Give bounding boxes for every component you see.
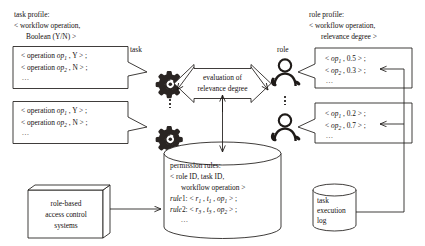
permission-rules-line-3: workflow operation > — [181, 183, 246, 193]
task-profile-format-line2: Boolean (Y/N) > — [26, 32, 76, 42]
role-label: role — [277, 45, 289, 55]
role-profile-box-2-line-1: < op1 , 0.2 > ; — [325, 109, 366, 121]
person-icon-role-1 — [271, 58, 300, 86]
rbac-line-1: role-based — [30, 199, 102, 209]
rbac-line-2: access control — [30, 210, 102, 220]
task-profile-format-line1: < workflow operation, — [14, 21, 80, 31]
role-profile-box-1-ellipsis: ... — [326, 76, 333, 85]
task-profile-title: task profile: — [14, 10, 50, 20]
task-profile-box-2-line-2: < operation op2 , N > ; — [21, 118, 88, 130]
task-vertical-ellipsis — [167, 97, 173, 108]
rule-keyword: rule — [170, 205, 182, 214]
task-profile-box-2-line-1: < operation op1 , Y > ; — [21, 106, 87, 118]
permission-rules-line-2: < role ID, task ID, — [170, 172, 224, 182]
rbac-line-3: systems — [30, 221, 102, 231]
task-profile-box-1-line-1: < operation op1 , Y > ; — [21, 51, 87, 63]
role-profile-box-1-line-1: < op1 , 0.5 > ; — [325, 54, 366, 66]
evaluation-line-2: relevance degree — [185, 84, 260, 94]
evaluation-line-1: evaluation of — [191, 73, 254, 83]
task-log-line-1: task — [317, 196, 329, 206]
person-icon-role-2 — [271, 113, 300, 141]
diagram-canvas: task profile: < workflow operation, Bool… — [0, 0, 425, 246]
role-vertical-ellipsis — [282, 94, 288, 105]
role-profile-format-line1: < workflow operation, — [309, 21, 375, 31]
task-profile-box-2-ellipsis: ... — [22, 128, 29, 137]
role-profile-format-line2: relevance degree > — [321, 32, 377, 42]
role-profile-box-2-ellipsis: ... — [326, 131, 333, 140]
permission-rules-line-1: permission rules: — [170, 161, 221, 171]
task-profile-box-1-line-2: < operation op2 , N > ; — [21, 63, 88, 75]
task-log-line-3: log — [317, 216, 326, 226]
rule-keyword: rule — [170, 194, 182, 203]
task-label: task — [130, 45, 142, 55]
role-profile-title: role profile: — [309, 10, 344, 20]
task-profile-box-1-ellipsis: ... — [22, 73, 29, 82]
permission-rules-ellipsis: ... — [181, 215, 188, 224]
task-log-line-2: execution — [317, 206, 346, 216]
